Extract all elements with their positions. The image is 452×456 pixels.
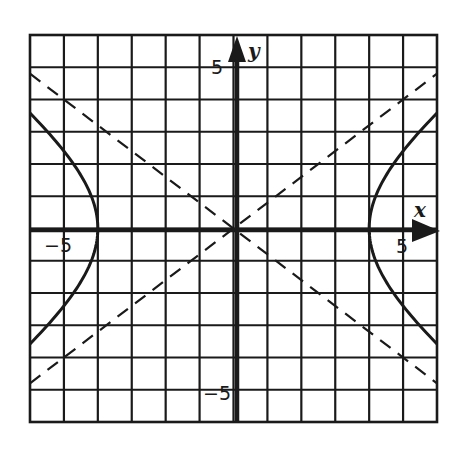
x-tick-label-5: 5 xyxy=(396,235,408,257)
x-axis-label: x xyxy=(413,198,427,222)
y-tick-label-5: 5 xyxy=(211,56,223,78)
y-tick-label-neg5: −5 xyxy=(203,382,231,404)
hyperbola-graph: −5 5 5 −5 y x xyxy=(0,0,452,456)
y-axis-arrow-icon xyxy=(228,36,246,62)
x-tick-label-neg5: −5 xyxy=(44,234,72,256)
y-axis-label: y xyxy=(247,39,261,63)
